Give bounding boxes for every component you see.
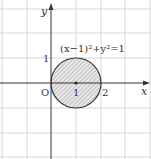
axes [0,6,146,159]
equation-label: (x−1)²+y²=1 [60,43,125,54]
x-tick-1: 1 [73,87,79,98]
coordinate-diagram: y x O 1 1 2 (x−1)²+y²=1 [0,0,151,159]
y-axis-arrow-icon [49,3,54,10]
x-tick-2: 2 [102,87,108,98]
x-axis-label: x [141,85,148,98]
origin-label: O [41,87,49,98]
y-tick-1: 1 [43,53,49,64]
center-point [74,81,77,84]
y-axis-label: y [40,5,48,18]
